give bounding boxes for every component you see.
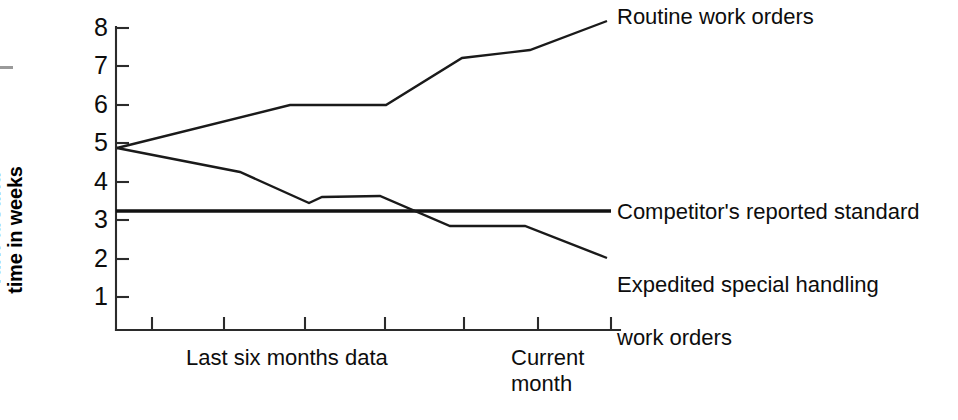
series-line-expedited-special-handling [117,148,607,258]
series-label-expedited-line-2: work orders [617,325,917,351]
y-axis-ticks [116,28,129,297]
x-axis-caption-current-month: Current month [511,345,621,397]
x-axis-caption-last-six-months: Last six months data [186,345,388,371]
series-label-competitors-reported-standard: Competitor's reported standard [617,199,920,225]
x-axis-caption-current-month-line-1: Current [511,345,621,371]
series-label-expedited-special-handling: Expedited special handling work orders [617,246,917,378]
series-label-routine-work-orders: Routine work orders [617,4,814,30]
chart-figure: Turn-around time in weeks 8 7 6 5 4 3 2 … [0,0,958,420]
x-axis-ticks [152,317,611,330]
series-label-expedited-line-1: Expedited special handling [617,272,917,298]
x-axis-caption-current-month-line-2: month [511,371,621,397]
series-line-routine-work-orders [117,21,607,148]
